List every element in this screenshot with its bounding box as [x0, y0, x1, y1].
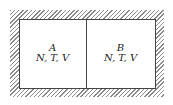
- compartment-b-vars: N, T, V: [87, 53, 154, 63]
- compartment-b-label: B N, T, V: [87, 43, 154, 63]
- compartment-a-vars: N, T, V: [19, 53, 86, 63]
- compartment-a-label: A N, T, V: [19, 43, 86, 63]
